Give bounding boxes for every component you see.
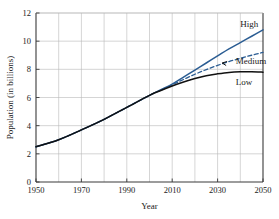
population-projection-chart: 024681012 195019701990201020302050 HighM… (0, 0, 279, 219)
y-axis-title: Population (in billions) (5, 56, 15, 140)
x-tick-label: 2050 (255, 185, 272, 195)
y-tick-label: 2 (27, 149, 31, 159)
x-tick-label: 2010 (164, 185, 181, 195)
y-tick-label: 4 (27, 121, 32, 131)
series-label-medium: Medium (236, 56, 267, 66)
series-label-high: High (240, 19, 258, 29)
x-tick-label: 2030 (209, 185, 226, 195)
x-tick-label: 1970 (73, 185, 90, 195)
y-tick-label: 10 (23, 36, 32, 46)
y-tick-label: 12 (23, 8, 32, 18)
y-tick-label: 6 (27, 93, 31, 103)
x-tick-label: 1950 (28, 185, 45, 195)
series-label-low: Low (236, 77, 253, 87)
x-tick-label: 1990 (118, 185, 135, 195)
y-tick-label: 8 (27, 64, 31, 74)
x-axis-title: Year (141, 201, 158, 211)
chart-canvas: 024681012 195019701990201020302050 HighM… (0, 0, 279, 219)
